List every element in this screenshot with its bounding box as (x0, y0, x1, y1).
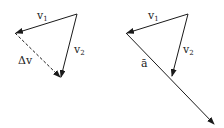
acceleration-arrow (126, 33, 214, 124)
right-v1-label: v1 (148, 10, 159, 23)
left-triangle (15, 14, 77, 77)
left-v1-label: v1 (37, 10, 48, 23)
vector-diagram-graphic (0, 0, 224, 128)
right-triangle (126, 14, 214, 124)
vector-diagram: v1 v2 Δv v1 v2 ā (0, 0, 224, 128)
left-v2-label: v2 (74, 44, 85, 57)
right-a-label: ā (141, 58, 148, 69)
right-v2-label: v2 (183, 44, 194, 57)
left-delta-v-label: Δv (18, 55, 32, 66)
